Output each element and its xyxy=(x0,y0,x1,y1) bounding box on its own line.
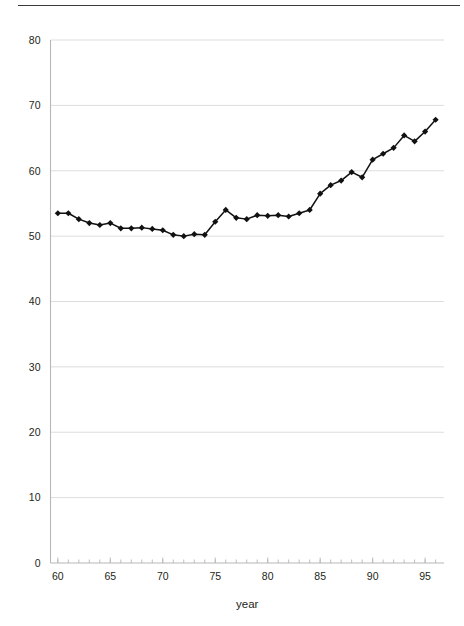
x-axis-major-ticks xyxy=(58,558,425,564)
data-point-marker xyxy=(86,220,92,226)
y-axis-tick-label: 0 xyxy=(35,557,41,569)
y-axis-tick-label: 50 xyxy=(29,230,41,242)
data-point-marker xyxy=(160,227,166,233)
data-point-marker xyxy=(286,213,292,219)
data-point-marker xyxy=(244,216,250,222)
series-markers-group xyxy=(55,117,439,240)
x-axis-tick-label: 60 xyxy=(52,570,64,582)
data-point-marker xyxy=(107,220,113,226)
x-axis-tick-label: 70 xyxy=(157,570,169,582)
chart-page: 01020304050607080 6065707580859095 year xyxy=(0,0,464,626)
x-axis-tick-label: 90 xyxy=(367,570,379,582)
data-point-marker xyxy=(254,212,260,218)
data-point-marker xyxy=(265,213,271,219)
data-point-marker xyxy=(275,212,281,218)
x-axis-tick-label: 85 xyxy=(314,570,326,582)
data-point-marker xyxy=(97,222,103,228)
x-axis-tick-labels: 6065707580859095 xyxy=(52,570,431,582)
y-axis-tick-label: 20 xyxy=(29,426,41,438)
data-point-marker xyxy=(170,232,176,238)
y-axis-tick-label: 60 xyxy=(29,165,41,177)
data-point-marker xyxy=(65,210,71,216)
chart-canvas: 01020304050607080 6065707580859095 year xyxy=(0,0,464,626)
data-point-marker xyxy=(181,233,187,239)
x-axis-tick-label: 75 xyxy=(209,570,221,582)
y-axis-tick-label: 40 xyxy=(29,295,41,307)
gridlines-group xyxy=(51,40,445,498)
data-point-marker xyxy=(55,210,61,216)
x-axis-title: year xyxy=(236,598,259,610)
data-point-marker xyxy=(149,226,155,232)
line-chart-figure: 01020304050607080 6065707580859095 year xyxy=(0,0,464,626)
x-axis-tick-label: 95 xyxy=(419,570,431,582)
y-axis-tick-label: 30 xyxy=(29,361,41,373)
data-point-marker xyxy=(296,210,302,216)
data-point-marker xyxy=(370,157,376,163)
data-point-marker xyxy=(118,225,124,231)
y-axis-tick-label: 70 xyxy=(29,99,41,111)
data-point-marker xyxy=(359,174,365,180)
data-point-marker xyxy=(139,225,145,231)
x-axis-tick-label: 80 xyxy=(262,570,274,582)
data-point-marker xyxy=(76,216,82,222)
y-axis-tick-labels: 01020304050607080 xyxy=(29,34,41,569)
y-axis-tick-label: 10 xyxy=(29,491,41,503)
y-axis-tick-label: 80 xyxy=(29,34,41,46)
x-axis-tick-label: 65 xyxy=(104,570,116,582)
data-point-marker xyxy=(380,151,386,157)
data-point-marker xyxy=(128,225,134,231)
